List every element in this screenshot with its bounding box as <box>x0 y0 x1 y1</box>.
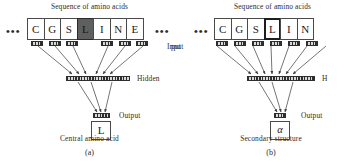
amino-acid-box[interactable]: G <box>44 18 62 40</box>
panel-b: Sequence of amino acids ••• <box>179 0 358 163</box>
panel-a-hidden-label: Hidden <box>137 74 160 83</box>
output-layer-bar <box>93 113 110 118</box>
input-unit <box>101 41 113 46</box>
input-unit <box>306 41 318 46</box>
panel-a-sequence: C G S L I N E <box>27 18 144 40</box>
input-unit <box>49 41 61 46</box>
panel-a-right-ellipsis: ••• <box>155 26 170 37</box>
panel-a-bottom-label: Central amino acid <box>0 134 179 143</box>
input-unit <box>270 41 282 46</box>
amino-acid-box[interactable]: I <box>280 18 298 40</box>
amino-acid-box[interactable]: C <box>27 18 45 40</box>
amino-acid-box[interactable]: N <box>297 18 315 40</box>
panel-b-letter: (b) <box>184 148 358 157</box>
amino-acid-box[interactable]: N <box>110 18 128 40</box>
hidden-layer-bar <box>247 76 315 81</box>
hidden-layer-bar <box>66 76 130 81</box>
input-unit <box>119 41 131 46</box>
amino-acid-box[interactable]: I <box>93 18 111 40</box>
central-amino-acid-box[interactable]: L <box>77 18 95 40</box>
input-unit <box>288 41 300 46</box>
panel-b-hidden-label: H <box>322 74 328 83</box>
central-amino-acid-box[interactable]: L <box>264 18 282 40</box>
panel-b-output-label: Output <box>301 111 322 120</box>
input-unit <box>136 41 148 46</box>
panel-b-left-ellipsis: ••• <box>194 26 209 37</box>
amino-acid-box[interactable]: S <box>247 18 265 40</box>
input-unit <box>234 41 246 46</box>
panel-b-bottom-label: Secondary structure <box>184 134 358 143</box>
panel-b-input-label: put <box>171 42 181 51</box>
panel-b-sequence: C G S L I N <box>214 18 314 40</box>
amino-acid-box[interactable]: S <box>60 18 78 40</box>
panel-a-letter: (a) <box>0 148 179 157</box>
panel-a: Sequence of amino acids ••• ••• <box>0 0 179 163</box>
panel-a-output-label: Output <box>119 111 140 120</box>
input-unit <box>66 41 78 46</box>
input-unit <box>216 41 228 46</box>
amino-acid-box[interactable]: E <box>126 18 144 40</box>
input-unit <box>31 41 43 46</box>
neural-network-figure: Sequence of amino acids ••• ••• <box>0 0 358 163</box>
output-layer-bar <box>274 113 286 118</box>
amino-acid-box[interactable]: C <box>214 18 232 40</box>
panel-a-left-ellipsis: ••• <box>6 26 21 37</box>
input-unit <box>252 41 264 46</box>
amino-acid-box[interactable]: G <box>231 18 249 40</box>
